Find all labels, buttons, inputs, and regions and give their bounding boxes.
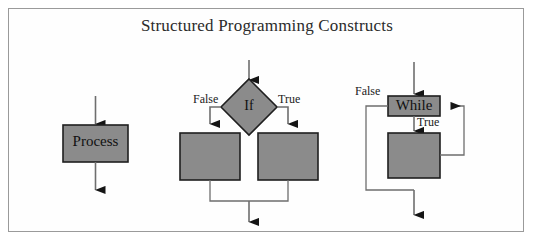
if-true-label: True <box>278 92 300 107</box>
if-false-connector <box>210 107 221 124</box>
iteration-construct <box>366 62 464 215</box>
selection-construct <box>180 60 318 222</box>
if-branch-merge-connector <box>210 180 288 201</box>
if-false-branch-box <box>180 133 240 180</box>
while-true-label: True <box>417 115 439 130</box>
while-box-label: While <box>388 97 440 114</box>
while-feedback-connector <box>440 106 464 155</box>
while-false-label: False <box>355 84 380 99</box>
diagram-canvas: Structured Programming Constructs <box>0 0 534 245</box>
if-diamond-label: If <box>229 98 269 114</box>
while-body-box <box>388 133 440 178</box>
if-true-branch-box <box>258 133 318 180</box>
flowchart-graphics <box>0 0 534 245</box>
if-false-label: False <box>193 92 218 107</box>
process-box-label: Process <box>63 133 128 150</box>
if-true-connector <box>277 107 288 124</box>
